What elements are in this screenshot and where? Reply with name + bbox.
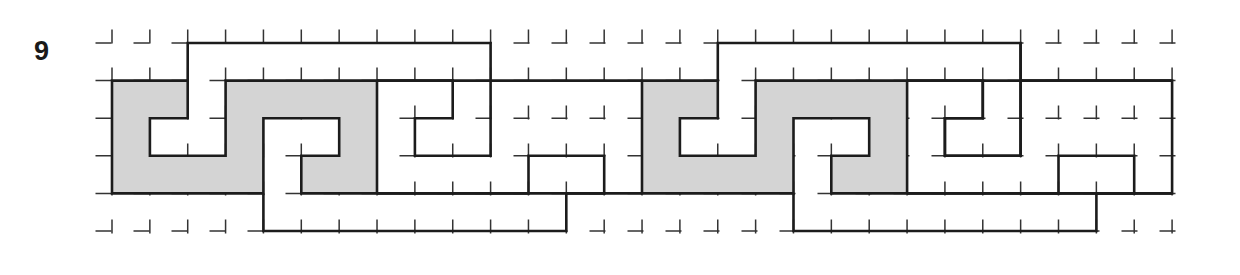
shaded-shape-1 xyxy=(112,81,377,194)
meander-line xyxy=(945,43,1021,156)
meander-diagram xyxy=(0,0,1240,275)
shaded-shape-2 xyxy=(642,81,907,194)
meander-line xyxy=(377,81,491,156)
border-end-line xyxy=(1021,81,1173,194)
